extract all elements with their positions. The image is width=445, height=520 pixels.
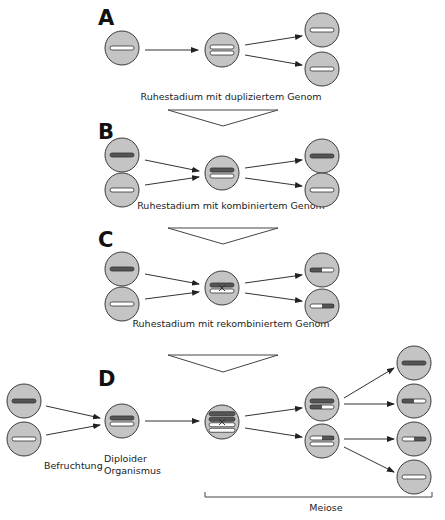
- arrow-a-divide-2: [245, 55, 302, 65]
- chromosome-light: [12, 437, 36, 441]
- arrow-b-divide-2: [245, 178, 302, 186]
- panel-label-a: A: [98, 6, 115, 30]
- cell-membrane: [105, 404, 139, 438]
- chromosome-segment: [322, 436, 334, 440]
- caption-diploid-line1: Diploider: [104, 453, 147, 464]
- cell-d-gamete-out-1: [397, 346, 431, 380]
- chromosome-segment: [414, 399, 426, 403]
- chromosome-light: [209, 428, 235, 432]
- caption-diploid-line2: Organismus: [104, 465, 161, 476]
- chromosome-recombinant: [310, 436, 334, 440]
- panel-label-c: C: [98, 228, 113, 252]
- chromosome-recombinant: [310, 304, 334, 308]
- arrow-c-fuse-1: [145, 274, 199, 284]
- chromosome-light: [110, 188, 134, 192]
- arrow-d-meiosis-6: [344, 447, 394, 472]
- chromosome-segment: [414, 437, 426, 441]
- cell-d-gamete-light: [7, 422, 41, 456]
- chromosome-segment: [310, 436, 322, 440]
- cell-membrane: [205, 156, 239, 190]
- cell-d-meiosis-2: [305, 424, 339, 458]
- chromosome-light: [310, 442, 334, 446]
- arrow-a-divide-1: [245, 36, 302, 45]
- cell-c-parent-dark: [105, 252, 139, 286]
- arrow-d-meiosis-2: [245, 428, 302, 437]
- transition-triangle-c: [168, 228, 278, 244]
- chromosome-segment: [322, 304, 334, 308]
- caption-duplicated-genome: Ruhestadium mit dupliziertem Genom: [140, 91, 321, 102]
- caption-combined-genome: Ruhestadium mit kombiniertem Genom: [137, 200, 325, 211]
- transition-triangle-b: [168, 110, 278, 126]
- cell-d-gamete-out-3: [397, 422, 431, 456]
- arrow-c-divide-2: [245, 293, 302, 301]
- caption-meiosis: Meiose: [309, 502, 342, 513]
- chromosome-recombinant: [310, 268, 334, 272]
- meiosis-diagram: A B C D Ruhestadium mit dupliziertem Gen…: [0, 0, 445, 520]
- cell-membrane: [305, 387, 339, 421]
- panel-label-b: B: [98, 120, 114, 144]
- arrow-c-fuse-2: [145, 292, 199, 299]
- chromosome-light: [210, 289, 234, 293]
- chromosome-light: [110, 422, 134, 426]
- chromosome-light: [402, 475, 426, 479]
- chromosome-light: [310, 67, 334, 71]
- cell-membrane: [305, 424, 339, 458]
- cell-c-daughter-dl: [305, 253, 339, 287]
- caption-fertilization: Befruchtung: [44, 460, 103, 471]
- cell-a-daughter-1: [305, 13, 339, 47]
- cell-d-gamete-out-2: [397, 384, 431, 418]
- chromosome-recombinant: [402, 399, 426, 403]
- panel-label-d: D: [98, 367, 115, 391]
- diagram-canvas: A B C D Ruhestadium mit dupliziertem Gen…: [0, 0, 445, 520]
- chromosome-light: [210, 45, 234, 49]
- arrow-d-meiosis-3: [344, 368, 394, 398]
- arrow-d-fertilize-2: [46, 425, 100, 435]
- cell-d-meiosis-1: [305, 387, 339, 421]
- cell-d-meiosis-recombining: [205, 405, 239, 439]
- cell-a-daughter-2: [305, 52, 339, 86]
- chromosome-dark: [209, 412, 235, 416]
- chromosome-light: [209, 423, 235, 427]
- cell-d-gamete-out-4: [397, 460, 431, 494]
- chromosome-recombinant: [402, 437, 426, 441]
- cell-d-gamete-dark: [7, 384, 41, 418]
- chromosome-light: [110, 46, 134, 50]
- cell-b-daughter-light: [305, 173, 339, 207]
- arrow-d-meiosis-1: [245, 408, 302, 416]
- cell-c-parent-light: [105, 287, 139, 321]
- chromosome-light: [110, 302, 134, 306]
- arrow-c-divide-1: [245, 275, 302, 283]
- chromosome-light: [310, 188, 334, 192]
- cells-layer: [7, 13, 431, 494]
- chromosome-dark: [110, 267, 134, 271]
- chromosome-segment: [310, 405, 322, 409]
- chromosome-dark: [209, 417, 235, 421]
- chromosome-dark: [310, 154, 334, 158]
- cell-d-diploid: [105, 404, 139, 438]
- chromosome-dark: [402, 361, 426, 365]
- cell-c-recombined: [205, 271, 239, 305]
- chromosome-dark: [110, 153, 134, 157]
- caption-recombined-genome: Ruhestadium mit rekombiniertem Genom: [132, 318, 329, 329]
- cell-membrane: [205, 33, 239, 67]
- cell-b-combined: [205, 156, 239, 190]
- cell-b-daughter-dark: [305, 139, 339, 173]
- chromosome-recombinant: [310, 405, 334, 409]
- chromosome-dark: [110, 416, 134, 420]
- chromosome-dark: [310, 399, 334, 403]
- cell-a-duplicated: [205, 33, 239, 67]
- cell-b-parent-light: [105, 173, 139, 207]
- chromosome-dark: [210, 168, 234, 172]
- chromosome-light: [310, 28, 334, 32]
- chromosome-dark: [210, 283, 234, 287]
- cell-c-daughter-ld: [305, 289, 339, 323]
- arrow-d-fertilize-1: [46, 406, 100, 418]
- transition-triangle-d: [168, 355, 278, 372]
- cell-b-parent-dark: [105, 138, 139, 172]
- chromosome-light: [210, 51, 234, 55]
- chromosome-light: [210, 174, 234, 178]
- arrow-b-fuse-2: [145, 177, 199, 185]
- arrow-b-divide-1: [245, 160, 302, 168]
- chromosome-segment: [402, 437, 414, 441]
- meiosis-bracket: [205, 492, 432, 497]
